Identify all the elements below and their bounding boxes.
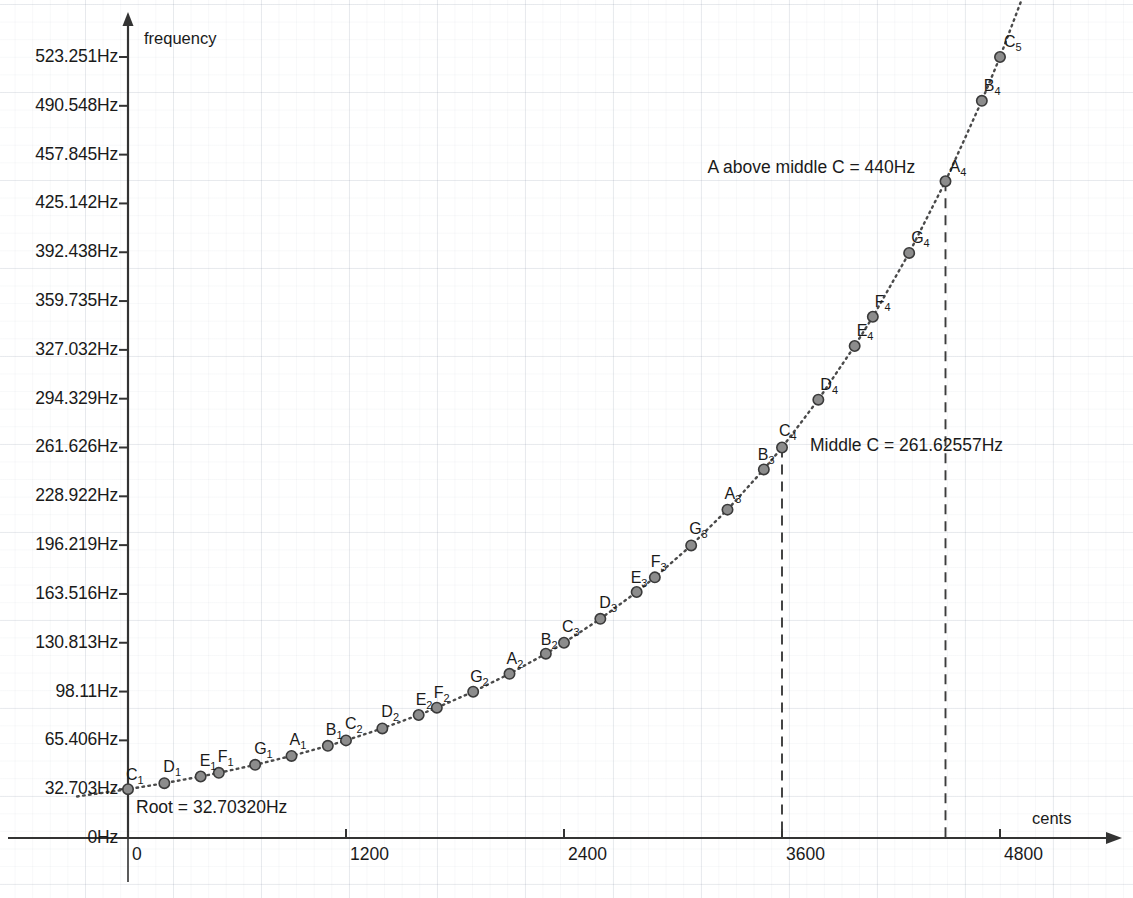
note-letter: G <box>254 740 266 757</box>
note-letter: D <box>163 758 175 775</box>
note-label-C2: C2 <box>345 716 363 735</box>
data-point-F2[interactable] <box>432 702 442 712</box>
data-point-C5[interactable] <box>995 52 1005 62</box>
note-octave: 3 <box>769 455 775 467</box>
note-label-C1: C1 <box>126 767 144 786</box>
note-letter: A <box>290 731 301 748</box>
data-point-A2[interactable] <box>504 669 514 679</box>
note-letter: C <box>1004 33 1016 50</box>
data-point-F3[interactable] <box>650 572 660 582</box>
note-octave: 4 <box>832 384 838 396</box>
note-letter: B <box>984 77 995 94</box>
y-axis-title: frequency <box>144 30 216 47</box>
note-octave: 1 <box>228 756 234 768</box>
y-axis-tick-label: 359.735Hz <box>0 292 118 310</box>
note-octave: 2 <box>393 712 399 724</box>
note-octave: 2 <box>357 724 363 736</box>
note-octave: 1 <box>210 760 216 772</box>
y-axis-tick-label: 65.406Hz <box>0 731 118 749</box>
data-point-D2[interactable] <box>377 723 387 733</box>
note-label-A2: A2 <box>507 651 524 670</box>
x-axis-title: cents <box>1032 810 1071 827</box>
data-point-G2[interactable] <box>468 687 478 697</box>
note-letter: B <box>541 631 552 648</box>
note-label-G2: G2 <box>470 669 489 688</box>
note-label-B1: B1 <box>326 722 343 741</box>
note-octave: 3 <box>735 493 741 505</box>
data-point-B4[interactable] <box>977 96 987 106</box>
note-letter: C <box>345 715 357 732</box>
note-letter: C <box>779 422 791 439</box>
data-point-D3[interactable] <box>595 614 605 624</box>
y-axis-tick-label: 490.548Hz <box>0 97 118 115</box>
note-label-F1: F1 <box>218 749 234 768</box>
note-octave: 1 <box>337 729 343 741</box>
note-label-D3: D3 <box>599 595 617 614</box>
note-octave: 1 <box>300 739 306 751</box>
note-label-D1: D1 <box>163 759 181 778</box>
data-point-D1[interactable] <box>159 778 169 788</box>
note-label-E1: E1 <box>200 753 217 772</box>
note-letter: E <box>416 691 427 708</box>
note-label-B3: B3 <box>758 447 775 466</box>
y-axis-tick-label: 327.032Hz <box>0 341 118 359</box>
data-point-E1[interactable] <box>195 771 205 781</box>
note-letter: G <box>911 229 923 246</box>
y-axis-tick-label: 163.516Hz <box>0 585 118 603</box>
note-letter: F <box>651 553 661 570</box>
note-letter: E <box>631 569 642 586</box>
note-octave: 2 <box>426 699 432 711</box>
data-point-C3[interactable] <box>559 638 569 648</box>
note-octave: 4 <box>885 301 891 313</box>
data-point-D4[interactable] <box>813 394 823 404</box>
note-label-A3: A3 <box>725 486 742 505</box>
note-letter: G <box>470 668 482 685</box>
note-octave: 1 <box>175 766 181 778</box>
note-octave: 4 <box>960 166 966 178</box>
note-octave: 1 <box>138 774 144 786</box>
note-letter: A <box>507 650 518 667</box>
note-letter: D <box>820 376 832 393</box>
data-point-B1[interactable] <box>323 741 333 751</box>
note-letter: A <box>725 485 736 502</box>
note-letter: F <box>875 293 885 310</box>
note-label-A4: A4 <box>950 159 967 178</box>
note-letter: E <box>200 752 211 769</box>
note-octave: 4 <box>867 330 873 342</box>
note-letter: F <box>434 684 444 701</box>
y-axis-tick-label: 228.922Hz <box>0 487 118 505</box>
note-letter: E <box>857 322 868 339</box>
data-point-E4[interactable] <box>849 341 859 351</box>
note-octave: 2 <box>517 658 523 670</box>
note-label-G3: G3 <box>689 521 708 540</box>
x-axis-arrowhead <box>1106 832 1122 844</box>
note-label-F2: F2 <box>434 685 450 704</box>
y-axis-tick-label: 32.703Hz <box>0 780 118 798</box>
note-label-A1: A1 <box>290 732 307 751</box>
note-octave: 4 <box>995 85 1001 97</box>
note-letter: C <box>126 766 138 783</box>
note-label-F4: F4 <box>875 294 891 313</box>
note-label-D4: D4 <box>820 377 838 396</box>
note-label-E2: E2 <box>416 692 433 711</box>
annotation-middle-c: Middle C = 261.62557Hz <box>810 437 1003 455</box>
note-letter: C <box>562 618 574 635</box>
data-point-G3[interactable] <box>686 540 696 550</box>
data-point-A1[interactable] <box>286 751 296 761</box>
data-point-A3[interactable] <box>722 504 732 514</box>
data-point-G1[interactable] <box>250 760 260 770</box>
note-octave: 1 <box>267 748 273 760</box>
annotation-a440: A above middle C = 440Hz <box>708 159 916 177</box>
annotation-root: Root = 32.70320Hz <box>136 799 287 817</box>
data-point-E2[interactable] <box>413 710 423 720</box>
data-point-F4[interactable] <box>868 312 878 322</box>
y-axis-tick-label: 294.329Hz <box>0 390 118 408</box>
frequency-curve <box>77 0 1040 796</box>
note-octave: 2 <box>483 676 489 688</box>
x-axis-tick-label: 1200 <box>350 846 389 864</box>
frequency-vs-cents-chart: 523.251Hz490.548Hz457.845Hz425.142Hz392.… <box>0 0 1133 898</box>
data-point-G4[interactable] <box>904 248 914 258</box>
y-axis-tick-label: 196.219Hz <box>0 536 118 554</box>
data-point-C4[interactable] <box>777 442 787 452</box>
note-label-C5: C5 <box>1004 34 1022 53</box>
